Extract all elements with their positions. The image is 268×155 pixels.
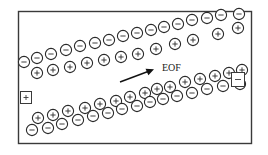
upper-wall-double-layer: [18, 8, 244, 78]
cation-icon: [150, 43, 161, 54]
anion-icon: [201, 83, 212, 94]
cation-icon: [187, 34, 198, 45]
anion-icon: [102, 107, 113, 118]
cation-icon: [47, 109, 58, 120]
anion-icon: [72, 114, 83, 125]
anion-icon: [217, 80, 228, 91]
anion-icon: [131, 27, 142, 38]
anode-electrode: [21, 92, 32, 104]
anion-icon: [42, 122, 53, 133]
cation-icon: [151, 83, 162, 94]
anion-icon: [186, 87, 197, 98]
anion-icon: [117, 30, 128, 41]
cation-icon: [32, 112, 43, 123]
cation-icon: [179, 76, 190, 87]
anion-icon: [56, 118, 67, 129]
anion-icon: [171, 90, 182, 101]
anion-icon: [89, 37, 100, 48]
anion-icon: [131, 100, 142, 111]
anion-icon: [60, 44, 71, 55]
anion-icon: [45, 48, 56, 59]
cation-icon: [232, 22, 243, 33]
eof-diagram: EOF: [0, 0, 268, 155]
anion-icon: [186, 14, 197, 25]
cation-icon: [98, 54, 109, 65]
eof-label: EOF: [162, 62, 181, 73]
anion-icon: [158, 21, 169, 32]
cathode-electrode: [232, 73, 245, 87]
anion-icon: [74, 40, 85, 51]
anion-icon: [215, 9, 226, 20]
cation-icon: [132, 48, 143, 59]
anion-icon: [201, 12, 212, 23]
cation-icon: [64, 61, 75, 72]
anion-icon: [233, 8, 244, 19]
cation-icon: [209, 70, 220, 81]
cation-icon: [31, 67, 42, 78]
anion-icon: [144, 96, 155, 107]
cation-icon: [94, 98, 105, 109]
cation-icon: [81, 57, 92, 68]
anion-icon: [157, 93, 168, 104]
cation-icon: [212, 28, 223, 39]
cation-icon: [194, 73, 205, 84]
anion-icon: [103, 34, 114, 45]
cation-icon: [47, 64, 58, 75]
eof-arrow: [120, 69, 154, 82]
cation-icon: [62, 105, 73, 116]
anion-icon: [145, 24, 156, 35]
anion-icon: [26, 124, 37, 135]
anion-icon: [31, 52, 42, 63]
cation-icon: [115, 51, 126, 62]
anion-icon: [172, 18, 183, 29]
cation-icon: [169, 38, 180, 49]
anion-icon: [87, 110, 98, 121]
anion-icon: [116, 103, 127, 114]
ion-layer: [18, 8, 247, 135]
anion-icon: [18, 56, 29, 67]
